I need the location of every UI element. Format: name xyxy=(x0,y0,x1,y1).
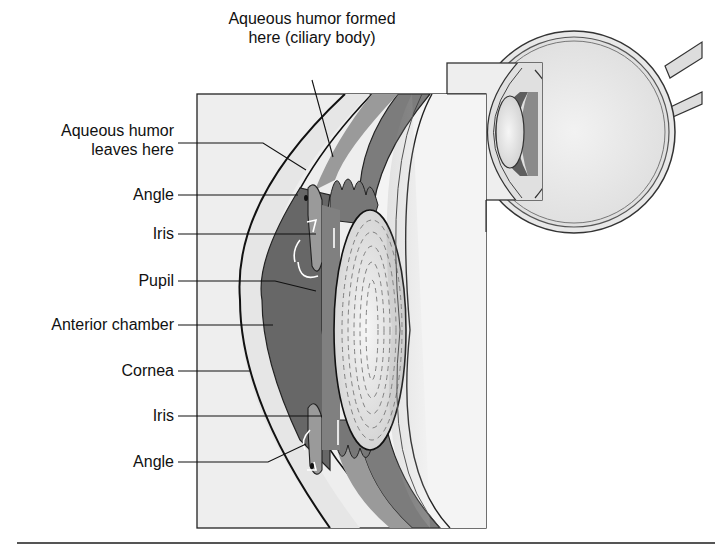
label-angle-top: Angle xyxy=(0,185,174,204)
label-anterior-chamber: Anterior chamber xyxy=(0,315,174,334)
eye-diagram: Aqueous humor formed here (ciliary body)… xyxy=(0,0,719,552)
label-iris-bottom: Iris xyxy=(0,406,174,425)
label-aqueous-humor-formed: Aqueous humor formed here (ciliary body) xyxy=(196,9,428,47)
label-aqueous-humor-leaves: Aqueous humor leaves here xyxy=(0,121,174,159)
label-angle-bottom: Angle xyxy=(0,452,174,471)
label-iris-top: Iris xyxy=(0,224,174,243)
label-line-2: leaves here xyxy=(0,140,174,159)
label-cornea: Cornea xyxy=(0,361,174,380)
label-line-1: Aqueous humor formed xyxy=(196,9,428,28)
label-pupil: Pupil xyxy=(0,271,174,290)
label-line-2: here (ciliary body) xyxy=(196,28,428,47)
label-line-1: Aqueous humor xyxy=(0,121,174,140)
anterior-segment-detail xyxy=(197,94,486,528)
